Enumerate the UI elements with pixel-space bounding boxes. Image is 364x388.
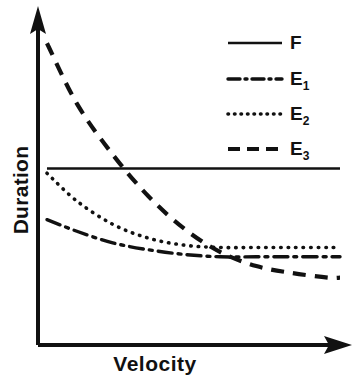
legend-label-F: F <box>290 32 302 54</box>
y-axis-title: Duration <box>6 128 36 252</box>
legend-label-F-text: F <box>290 32 302 53</box>
legend-label-E3-text: E <box>290 138 303 159</box>
legend-label-E1-text: E <box>290 68 303 89</box>
legend-label-E3: E3 <box>290 138 309 163</box>
duration-velocity-chart <box>0 0 364 388</box>
legend-label-E3-sub: 3 <box>303 149 310 163</box>
legend-label-E2-text: E <box>290 103 303 124</box>
legend-label-E2: E2 <box>290 103 309 128</box>
x-axis-title: Velocity <box>0 352 310 376</box>
legend-label-E1: E1 <box>290 68 309 93</box>
legend-label-E2-sub: 2 <box>303 114 310 128</box>
legend-label-E1-sub: 1 <box>303 79 310 93</box>
y-axis-title-text: Duration <box>9 146 33 235</box>
chart-background <box>0 0 364 388</box>
